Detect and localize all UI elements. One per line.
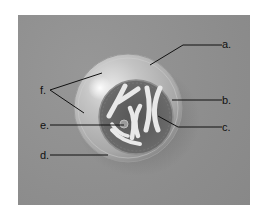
leader-line-a: [150, 45, 222, 65]
nucleolus: [120, 120, 128, 128]
label-a: a.: [222, 39, 231, 50]
cell-illustration: [0, 0, 265, 217]
label-e: e.: [40, 120, 49, 131]
label-d: d.: [40, 150, 49, 161]
label-c: c.: [222, 122, 231, 133]
label-f: f.: [40, 85, 46, 96]
label-b: b.: [222, 95, 231, 106]
